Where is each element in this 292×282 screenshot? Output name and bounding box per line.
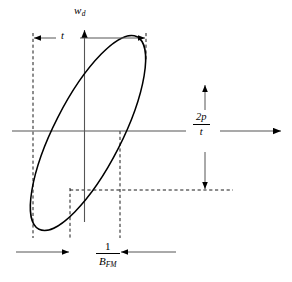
diagram-canvas [0,0,292,282]
bandwidth-numerator: 1 [96,240,120,252]
bandwidth-denominator: BFM [96,255,120,269]
vertical-axis-label-subscript: d [82,9,86,18]
two-pi-denominator: t [193,126,210,138]
figure-container: wd t 2p t 1 BFM [0,0,292,282]
tilted-ellipse [9,21,168,244]
fraction-bar [193,124,210,125]
two-pi-over-tau-label: 2p t [193,111,210,138]
two-pi-numerator: 2p [193,111,210,123]
bandwidth-denominator-base: B [99,255,106,267]
tau-dimension-label: t [61,31,64,42]
inverse-bandwidth-label: 1 BFM [96,240,120,269]
vertical-axis-label-base: w [74,4,81,16]
bandwidth-denominator-subscript: FM [106,260,117,269]
fraction-bar [96,253,120,254]
vertical-axis-label: wd [74,5,85,17]
